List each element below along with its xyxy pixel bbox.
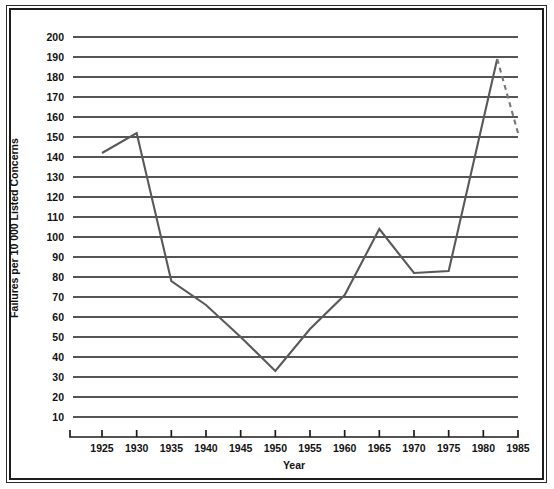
x-tick-label: 1930 (125, 442, 148, 454)
x-tick-label: 1925 (90, 442, 113, 454)
y-tick-label: 170 (30, 91, 64, 103)
x-tick-label: 1970 (402, 442, 425, 454)
series-line (102, 59, 497, 371)
y-tick-label: 160 (30, 111, 64, 123)
y-tick-label: 20 (30, 391, 64, 403)
y-tick-label: 60 (30, 311, 64, 323)
data-series (102, 59, 518, 371)
y-tick-label: 30 (30, 371, 64, 383)
x-tick-label: 1945 (229, 442, 252, 454)
x-axis (70, 430, 518, 437)
gridlines (73, 37, 518, 417)
y-tick-label: 150 (30, 131, 64, 143)
x-tick-label: 1950 (264, 442, 287, 454)
y-tick-label: 100 (30, 231, 64, 243)
y-tick-label: 70 (30, 291, 64, 303)
y-tick-label: 10 (30, 411, 64, 423)
x-tick-label: 1965 (368, 442, 391, 454)
y-tick-label: 40 (30, 351, 64, 363)
x-tick-label: 1955 (298, 442, 321, 454)
x-tick-label: 1980 (472, 442, 495, 454)
x-axis-title: Year (283, 459, 305, 471)
x-tick-label: 1940 (194, 442, 217, 454)
y-tick-label: 80 (30, 271, 64, 283)
x-tick-label: 1985 (506, 442, 529, 454)
x-tick-label: 1975 (437, 442, 460, 454)
y-tick-label: 90 (30, 251, 64, 263)
y-tick-label: 200 (30, 31, 64, 43)
y-axis-title: Failures per 10 000 Listed Concerns (8, 138, 20, 318)
y-tick-label: 190 (30, 51, 64, 63)
x-tick-label: 1935 (160, 442, 183, 454)
line-chart-plot (0, 0, 554, 489)
y-tick-label: 180 (30, 71, 64, 83)
y-tick-label: 110 (30, 211, 64, 223)
chart-figure: 1020304050607080901001101201301401501601… (0, 0, 554, 489)
y-tick-label: 130 (30, 171, 64, 183)
series-line (497, 59, 518, 133)
y-tick-label: 120 (30, 191, 64, 203)
x-tick-label: 1960 (333, 442, 356, 454)
y-tick-label: 140 (30, 151, 64, 163)
y-tick-label: 50 (30, 331, 64, 343)
